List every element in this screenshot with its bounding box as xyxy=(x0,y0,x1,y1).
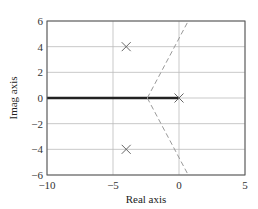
y-tick-label: 0 xyxy=(38,92,44,104)
x-tick-labels: −10−505 xyxy=(38,179,248,191)
plot-series xyxy=(47,21,188,175)
y-axis-label: Imag axis xyxy=(7,76,19,119)
y-tick-label: −6 xyxy=(31,169,43,181)
x-tick-label: −5 xyxy=(107,179,119,191)
x-tick-label: 0 xyxy=(176,179,182,191)
x-tick-label: 5 xyxy=(242,179,248,191)
asymptote-lower-line xyxy=(147,98,188,175)
x-axis-label: Real axis xyxy=(126,193,167,205)
y-tick-labels: −6−4−20246 xyxy=(31,15,43,181)
asymptote-upper-line xyxy=(147,21,188,98)
root-locus-chart: −10−505 −6−4−20246 Real axis Imag axis xyxy=(0,0,258,209)
y-tick-label: −4 xyxy=(31,143,43,155)
y-tick-label: −2 xyxy=(31,118,43,130)
y-tick-label: 2 xyxy=(38,66,44,78)
y-tick-label: 6 xyxy=(38,15,44,27)
y-tick-label: 4 xyxy=(38,41,44,53)
